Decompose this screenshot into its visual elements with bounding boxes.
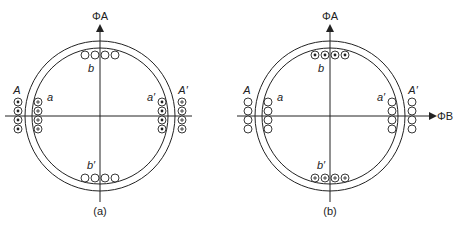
coil-A: [14, 98, 22, 106]
panel-caption: (b): [323, 205, 336, 217]
coil-a: [264, 125, 272, 133]
coil-a: [264, 107, 272, 115]
coil-b-prime: [321, 174, 329, 182]
coil-b: [91, 51, 99, 59]
coil-A: [14, 116, 22, 124]
label-a-prime: a′: [147, 91, 156, 103]
label-b-prime: b′: [317, 159, 326, 171]
panel-caption: (a): [93, 205, 106, 217]
coil-b-prime: [331, 174, 339, 182]
coil-A-prime: [408, 107, 416, 115]
coil-A: [244, 116, 252, 124]
coil-b-prime: [311, 174, 319, 182]
coil-b: [101, 51, 109, 59]
label-A-prime: A′: [177, 84, 188, 96]
coil-A-prime: [178, 116, 186, 124]
coil-a: [34, 107, 42, 115]
panel-a: ΦAAaa′A′bb′(a): [5, 10, 192, 217]
coil-a: [264, 116, 272, 124]
coil-A: [244, 107, 252, 115]
label-b: b: [88, 62, 94, 74]
coil-b: [321, 51, 329, 59]
label-A-prime: A′: [407, 84, 418, 96]
coil-a-prime: [388, 98, 396, 106]
flux-b-label: ΦB: [437, 110, 453, 122]
coil-b: [81, 51, 89, 59]
label-b-prime: b′: [87, 159, 96, 171]
coil-A: [244, 125, 252, 133]
label-a-prime: a′: [377, 91, 386, 103]
label-a: a: [277, 91, 283, 103]
coil-b-prime: [91, 174, 99, 182]
coil-A-prime: [408, 98, 416, 106]
coil-a: [264, 98, 272, 106]
coil-A-prime: [178, 107, 186, 115]
coil-a-prime: [388, 125, 396, 133]
coil-b-prime: [81, 174, 89, 182]
coil-b: [311, 51, 319, 59]
coil-a: [34, 98, 42, 106]
coil-b: [331, 51, 339, 59]
stator-winding-diagram: ΦAAaa′A′bb′(a) ΦBΦAAaa′A′bb′(b): [0, 0, 456, 226]
label-A: A: [12, 84, 20, 96]
flux-a-label: ΦA: [322, 10, 339, 22]
coil-a-prime: [158, 107, 166, 115]
coil-b-prime: [111, 174, 119, 182]
coil-a-prime: [388, 116, 396, 124]
coil-A: [14, 107, 22, 115]
flux-a-label: ΦA: [92, 10, 109, 22]
coil-a-prime: [388, 107, 396, 115]
coil-a-prime: [158, 116, 166, 124]
coil-b: [111, 51, 119, 59]
coil-a-prime: [158, 125, 166, 133]
coil-a: [34, 116, 42, 124]
coil-A: [244, 98, 252, 106]
coil-A: [14, 125, 22, 133]
coil-b-prime: [101, 174, 109, 182]
coil-A-prime: [178, 125, 186, 133]
coil-b-prime: [341, 174, 349, 182]
panel-b: ΦBΦAAaa′A′bb′(b): [237, 10, 453, 217]
coil-A-prime: [408, 116, 416, 124]
label-A: A: [242, 84, 250, 96]
coil-a-prime: [158, 98, 166, 106]
coil-a: [34, 125, 42, 133]
coil-A-prime: [408, 125, 416, 133]
coil-A-prime: [178, 98, 186, 106]
label-b: b: [318, 62, 324, 74]
label-a: a: [47, 91, 53, 103]
coil-b: [341, 51, 349, 59]
